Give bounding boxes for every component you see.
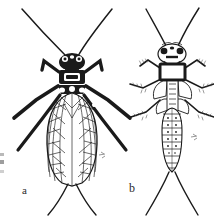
panel-label-b: b bbox=[129, 182, 135, 194]
nymph-pronotum bbox=[160, 64, 185, 80]
panel-label-a: a bbox=[22, 185, 27, 196]
nymph-eye-right bbox=[177, 48, 184, 54]
adult-eye-right bbox=[78, 58, 81, 61]
edge-mark-1 bbox=[0, 153, 4, 156]
edge-mark-2 bbox=[0, 160, 4, 164]
nymph-eye-left bbox=[161, 48, 168, 54]
adult-wings bbox=[47, 93, 97, 186]
edge-mark-3 bbox=[0, 170, 4, 173]
adult-eye-left bbox=[64, 58, 67, 61]
adult-thorax bbox=[58, 70, 86, 94]
stonefly-figure-plate bbox=[0, 0, 214, 216]
